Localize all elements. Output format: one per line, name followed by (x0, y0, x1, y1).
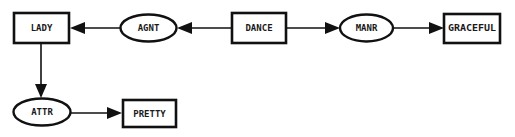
arrowhead-manr (325, 22, 340, 34)
arrowhead-attr (35, 84, 47, 98)
relation-agnt: AGNT (121, 15, 177, 42)
arrowhead-lady (70, 22, 85, 34)
conceptual-graph: LADY DANCE GRACEFUL PRETTY AGNT MANR ATT… (0, 0, 515, 137)
concept-pretty: PRETTY (123, 100, 176, 127)
relation-attr-label: ATTR (31, 107, 53, 117)
relation-manr-label: MANR (356, 23, 378, 33)
arrowhead-graceful (429, 22, 444, 34)
relation-attr: ATTR (14, 99, 71, 126)
concept-graceful-label: GRACEFUL (448, 23, 497, 33)
concept-graceful: GRACEFUL (444, 14, 500, 43)
relation-agnt-label: AGNT (138, 23, 160, 33)
concept-lady-label: LADY (31, 23, 53, 33)
concept-dance: DANCE (232, 13, 286, 43)
concept-lady: LADY (14, 13, 69, 43)
concept-pretty-label: PRETTY (133, 109, 166, 119)
concept-dance-label: DANCE (245, 23, 272, 33)
arrowhead-pretty (107, 107, 122, 119)
arrowhead-agnt (177, 22, 192, 34)
relation-manr: MANR (340, 15, 393, 42)
